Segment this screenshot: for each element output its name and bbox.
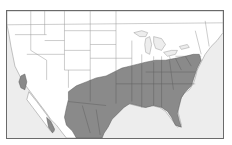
map-svg <box>7 11 223 138</box>
range-map <box>6 10 224 139</box>
